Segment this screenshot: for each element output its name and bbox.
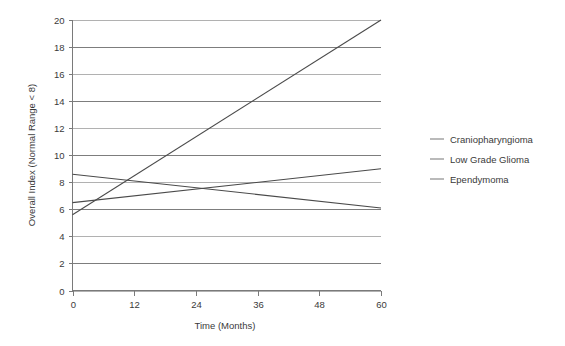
x-tick-label: 48	[314, 299, 325, 310]
y-tick-label: 8	[59, 177, 64, 188]
y-tick-label: 2	[59, 258, 64, 269]
x-tick-label: 24	[191, 299, 202, 310]
x-tick-label: 60	[376, 299, 387, 310]
legend-label-low-grade-glioma: Low Grade Glioma	[450, 154, 530, 165]
x-tick-label: 0	[71, 299, 76, 310]
chart-figure: 02468101214161820 01224364860 Time (Mont…	[0, 0, 565, 346]
x-tick-label: 12	[129, 299, 140, 310]
legend-label-ependymoma: Ependymoma	[450, 174, 509, 185]
y-axis-title: Overall Index (Normal Range < 8)	[26, 84, 37, 226]
y-tick-label: 10	[54, 150, 65, 161]
y-tick-label: 6	[59, 204, 64, 215]
y-tick-label: 16	[54, 69, 65, 80]
y-tick-label: 0	[59, 286, 64, 297]
x-tick-label: 36	[253, 299, 264, 310]
x-axis-title: Time (Months)	[195, 320, 256, 331]
y-tick-label: 20	[54, 15, 65, 26]
y-tick-label: 12	[54, 123, 65, 134]
line-chart: 02468101214161820 01224364860 Time (Mont…	[0, 0, 565, 346]
y-tick-label: 18	[54, 42, 65, 53]
y-tick-label: 4	[59, 231, 64, 242]
y-tick-label: 14	[54, 96, 65, 107]
legend-label-craniopharyngioma: Craniopharyngioma	[450, 134, 534, 145]
